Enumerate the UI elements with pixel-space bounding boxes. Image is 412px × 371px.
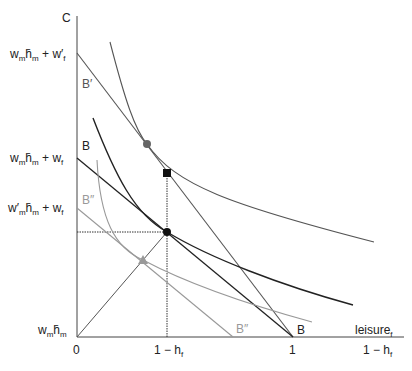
- svg-text:wmh̄m + wf: wmh̄m + wf: [9, 151, 64, 167]
- budget-line-b-prime: [77, 53, 293, 337]
- origin-ray: [77, 232, 167, 337]
- y-label-top: wmh̄m + w′f: [9, 47, 66, 63]
- x-axis-label: leisuref: [355, 323, 393, 339]
- svg-text:wmh̄m: wmh̄m: [37, 323, 67, 339]
- x-tick-1-minus-hf-right: 1 − hf: [363, 343, 393, 359]
- y-label-base: wmh̄m: [37, 323, 67, 339]
- label-b-double-prime-upper: B″: [82, 193, 95, 207]
- labor-supply-diagram: C 0 leisuref 1 − hf 1 1 − hf wmh̄m + w′f…: [0, 0, 412, 371]
- black-square-marker: [163, 169, 171, 177]
- x-tick-1: 1: [289, 343, 296, 357]
- svg-text:w′mh̄m + wf: w′mh̄m + wf: [7, 201, 64, 217]
- label-b-upper: B: [82, 139, 90, 153]
- svg-text:wmh̄m + w′f: wmh̄m + w′f: [9, 47, 66, 63]
- label-b-lower: B: [297, 323, 305, 337]
- x-tick-1-minus-hf: 1 − hf: [154, 343, 184, 359]
- gray-circle-marker: [143, 140, 151, 148]
- budget-line-b: [77, 158, 293, 337]
- black-circle-marker: [163, 228, 171, 236]
- label-b-prime: B′: [82, 77, 93, 91]
- indifference-curve-lower: [97, 160, 312, 322]
- y-axis-label: C: [62, 11, 71, 25]
- label-b-double-prime-lower: B″: [236, 322, 249, 336]
- y-label-low: w′mh̄m + wf: [7, 201, 64, 217]
- origin-label: 0: [73, 343, 80, 357]
- indifference-curve-middle: [93, 118, 353, 305]
- y-label-mid: wmh̄m + wf: [9, 151, 64, 167]
